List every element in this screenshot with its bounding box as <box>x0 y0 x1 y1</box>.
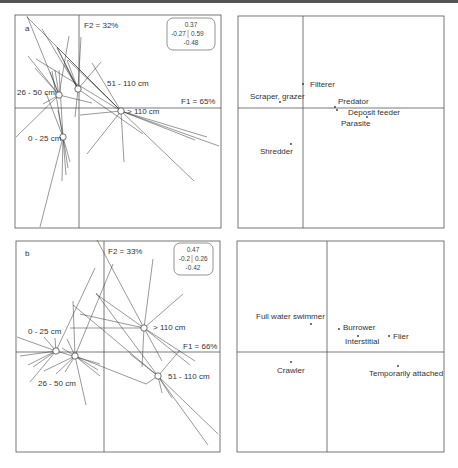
panel-b-f2-label: F2 = 33% <box>108 247 142 256</box>
panel-a: a F2 = 32% F1 = 65% 26 - 50 cm 51 - 110 … <box>15 15 221 228</box>
panel-a-centroids <box>56 86 124 140</box>
label-51-110: 51 - 110 cm <box>107 79 149 88</box>
label-b-0-25: 0 - 25 cm <box>28 327 62 336</box>
label-gt-110: > 110 cm <box>127 107 160 116</box>
trait-temporarily-attached: Temporarily attached <box>369 369 443 378</box>
trait-deposit-feeder: Deposit feeder <box>348 108 400 117</box>
panel-a-f1-label: F1 = 65% <box>181 97 215 106</box>
svg-text:-0.48: -0.48 <box>184 39 199 46</box>
centroid-26-50 <box>56 92 62 98</box>
centroid-gt-110 <box>118 108 124 114</box>
label-26-50: 26 - 50 cm <box>17 88 55 97</box>
centroid-b-51-110 <box>155 373 161 379</box>
trait-crawler: Crawler <box>277 366 305 375</box>
centroid-b-gt-110 <box>141 325 147 331</box>
panel-b-traits: Full water swimmer Burrower Interstitial… <box>237 241 444 452</box>
svg-text:-0.27: -0.27 <box>171 30 186 37</box>
trait-filterer: Filterer <box>310 80 335 89</box>
panel-b: b F2 = 33% F1 = 66% 0 - 25 cm 26 - 50 cm… <box>16 240 220 452</box>
panel-a-scale-box: 0.37 -0.27 0.59 -0.48 <box>167 18 215 50</box>
trait-predator: Predator <box>338 97 369 106</box>
trait-parasite: Parasite <box>341 119 371 128</box>
panel-b-letter: b <box>25 249 30 258</box>
centroid-b-0-25 <box>53 348 59 354</box>
label-b-51-110: 51 - 110 cm <box>168 372 210 381</box>
trait-scraper-grazer: Scraper, grazer <box>250 92 305 101</box>
svg-text:-0.2: -0.2 <box>179 255 191 262</box>
label-0-25: 0 - 25 cm <box>28 134 62 143</box>
figure-canvas: a F2 = 32% F1 = 65% 26 - 50 cm 51 - 110 … <box>0 0 458 468</box>
panel-b-scale-box: 0.47 -0.2 0.26 -0.42 <box>174 243 213 275</box>
svg-text:0.37: 0.37 <box>185 21 198 28</box>
panel-a-letter: a <box>25 24 30 33</box>
label-b-gt-110: > 110 cm <box>153 323 186 332</box>
panel-b-f1-label: F1 = 66% <box>183 342 217 351</box>
trait-shredder: Shredder <box>260 147 293 156</box>
label-b-26-50: 26 - 50 cm <box>38 379 76 388</box>
centroid-b-26-50 <box>72 353 78 359</box>
svg-text:-0.42: -0.42 <box>186 264 201 271</box>
svg-text:0.26: 0.26 <box>195 255 208 262</box>
centroid-51-110 <box>75 86 81 92</box>
panel-a-traits: Filterer Scraper, grazer Predator Deposi… <box>238 16 444 228</box>
svg-text:0.59: 0.59 <box>191 30 204 37</box>
trait-full-water-swimmer: Full water swimmer <box>256 312 325 321</box>
trait-flier: Flier <box>393 332 409 341</box>
panel-a-f2-label: F2 = 32% <box>84 21 118 30</box>
panel-b-traits-frame <box>237 241 444 452</box>
trait-burrower: Burrower <box>343 323 376 332</box>
trait-interstitial: Interstitial <box>345 337 379 346</box>
svg-text:0.47: 0.47 <box>187 246 200 253</box>
